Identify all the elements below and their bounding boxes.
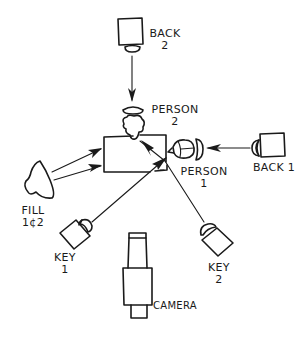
person1-label: PERSON 1: [180, 166, 228, 190]
back1-label: BACK 1: [252, 162, 296, 174]
fill-arrows: [52, 148, 102, 180]
fill-label: FILL 1¢2: [14, 205, 52, 229]
back1-light-icon: [252, 133, 285, 157]
key1-light-icon: [60, 220, 92, 249]
camera-label: CAMERA: [152, 300, 198, 312]
camera-icon: [123, 233, 152, 318]
back2-label: BACK 2: [146, 28, 184, 52]
back1-arrow: [206, 144, 250, 152]
person1-icon: [168, 139, 203, 160]
person2-label: PERSON 2: [151, 104, 199, 128]
key2-label: KEY 2: [203, 262, 235, 286]
key1-label: KEY 1: [50, 252, 80, 276]
back2-light-icon: [118, 18, 143, 52]
key2-light-icon: [201, 224, 233, 256]
back2-arrow: [128, 56, 136, 102]
fill-light-icon: [25, 161, 54, 198]
